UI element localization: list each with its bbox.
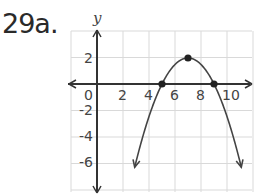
x-tick-label: 6 <box>170 87 179 103</box>
x-tick-label: 0 <box>84 87 93 103</box>
x-tick-label: 2 <box>118 87 127 103</box>
x-tick-label: 4 <box>144 87 153 103</box>
y-tick-label: -2 <box>79 102 93 118</box>
marked-point <box>210 80 217 87</box>
parabola-path <box>135 58 242 167</box>
y-tick-label: -4 <box>79 128 93 144</box>
parabola-graph: y 02468102-2-4-6 <box>0 0 259 194</box>
marked-point <box>158 80 165 87</box>
marked-points <box>158 54 217 87</box>
y-tick-label: -6 <box>79 154 93 170</box>
parabola-curve <box>133 58 243 167</box>
x-tick-label: 8 <box>196 87 205 103</box>
y-tick-label: 2 <box>84 50 93 66</box>
y-axis-label: y <box>92 9 102 27</box>
x-tick-label: 10 <box>222 87 240 103</box>
marked-point <box>184 54 191 61</box>
